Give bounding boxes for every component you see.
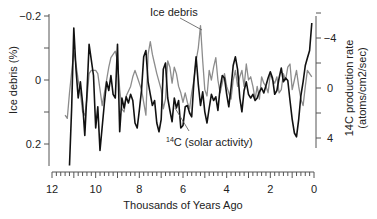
right-tick-label: 0: [327, 82, 333, 94]
x-tick-label: 12: [46, 183, 58, 195]
x-axis-label: Thousands of Years Ago: [123, 199, 242, 211]
x-tick-label: 6: [180, 183, 186, 195]
c14-label: 14C (solar activity): [166, 136, 253, 148]
left-axis: [44, 14, 49, 166]
x-tick-label: 0: [311, 183, 317, 195]
x-tick-label: 4: [224, 183, 230, 195]
right-axis: [316, 13, 321, 148]
c14-label-text: C (solar activity): [174, 136, 253, 148]
right-axis-label-line1: 14C production rate: [343, 40, 355, 137]
x-tick-label: 10: [90, 183, 102, 195]
ice-debris-annotation: Ice debris: [150, 6, 202, 30]
chart: −0.200.2−404121086420 Ice debris (%) 14C…: [0, 0, 377, 219]
right-tick-label: 4: [327, 132, 333, 144]
x-axis: [52, 172, 314, 178]
ice-debris-line: [65, 26, 312, 119]
c14-superscript: 14: [166, 136, 174, 143]
x-tick-label: 8: [136, 183, 142, 195]
ice-debris-label: Ice debris: [150, 6, 198, 18]
left-axis-label: Ice debris (%): [7, 46, 19, 114]
c14-annotation: 14C (solar activity): [166, 108, 253, 148]
left-tick-label: −0.2: [19, 10, 41, 22]
right-tick-label: −4: [324, 32, 337, 44]
x-tick-label: 2: [267, 183, 273, 195]
left-tick-label: 0: [35, 74, 41, 86]
left-tick-label: 0.2: [26, 138, 41, 150]
right-axis-label-line2: (atoms/cm2/sec): [356, 47, 368, 128]
